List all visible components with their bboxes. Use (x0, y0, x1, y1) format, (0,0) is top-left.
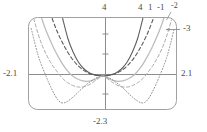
graphing-calculator-screenshot: 4 4 1 -1 -2 -3 -2.1 2.1 -2.3 (0, 0, 207, 132)
curve-label-4: 4 (138, 3, 143, 12)
curve-label-minus-2: -2 (171, 2, 178, 10)
y-max-label: 4 (102, 3, 107, 12)
curve-label-minus-1: -1 (157, 3, 165, 12)
curve-label-1: 1 (148, 3, 153, 12)
curve-label-minus-3: -3 (183, 24, 191, 33)
y-min-label: -2.3 (93, 117, 107, 126)
plot-canvas (0, 0, 207, 132)
x-max-label: 2.1 (181, 69, 192, 78)
window-frame (29, 18, 177, 110)
x-min-label: -2.1 (3, 69, 17, 78)
